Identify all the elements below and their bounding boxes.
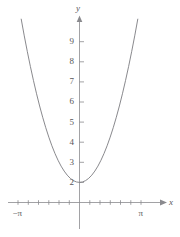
y-axis-arrowhead (77, 16, 83, 23)
x-tick-label-neg-pi: −π (13, 209, 23, 218)
y-tick-label-3: 3 (60, 158, 74, 167)
x-tick-label-pi: π (139, 209, 144, 218)
y-tick-label-4: 4 (60, 138, 74, 147)
x-axis-label: x (169, 198, 173, 207)
y-tick-label-8: 8 (60, 57, 74, 66)
graph-figure: 2 3 4 5 6 7 8 9 −π π x y (0, 0, 180, 237)
plot-canvas (0, 0, 180, 237)
y-tick-label-7: 7 (60, 77, 74, 86)
y-tick-label-5: 5 (60, 118, 74, 127)
x-axis-arrowhead (160, 200, 167, 206)
y-axis-ticks (80, 42, 85, 183)
y-tick-label-9: 9 (60, 37, 74, 46)
y-axis-label: y (76, 4, 80, 13)
y-tick-label-2: 2 (60, 178, 74, 187)
y-tick-label-6: 6 (60, 97, 74, 106)
